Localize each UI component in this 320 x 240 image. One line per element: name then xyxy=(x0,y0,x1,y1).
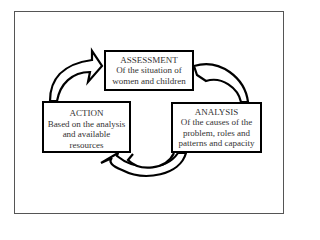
curved-arrow-icon xyxy=(50,51,102,101)
analysis-desc-line-2: problem, roles and xyxy=(173,128,260,139)
analysis-title: ANALYSIS xyxy=(173,107,260,118)
assessment-desc-line-2: women and children xyxy=(106,76,192,87)
curved-arrow-icon xyxy=(194,64,248,102)
action-box: ACTION Based on the analysis and availab… xyxy=(42,101,131,153)
assessment-title: ASSESSMENT xyxy=(106,55,192,66)
action-desc-line-3: resources xyxy=(44,140,129,151)
analysis-desc-line-3: patterns and capacity xyxy=(173,138,260,149)
action-desc-line-1: Based on the analysis xyxy=(44,119,129,130)
assessment-desc-line-1: Of the situation of xyxy=(106,65,192,76)
action-title: ACTION xyxy=(44,108,129,119)
action-desc-line-2: and available xyxy=(44,129,129,140)
analysis-desc-line-1: Of the causes of the xyxy=(173,117,260,128)
assessment-box: ASSESSMENT Of the situation of women and… xyxy=(104,50,194,91)
curved-arrow-icon xyxy=(101,153,186,176)
analysis-box: ANALYSIS Of the causes of the problem, r… xyxy=(171,102,262,153)
